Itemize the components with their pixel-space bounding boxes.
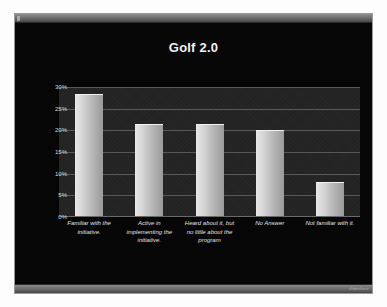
x-axis-tick-label: Not familiar with it. [303, 219, 357, 228]
chart-bar [75, 94, 103, 218]
slide-canvas: Golf 2.0 30%25%20%15%10%5%0%Familiar wit… [15, 23, 372, 284]
gridline [59, 87, 360, 88]
chart-bar [256, 130, 284, 217]
presentation-slide-frame: Golf 2.0 30%25%20%15%10%5%0%Familiar wit… [14, 13, 373, 294]
y-axis-tick-label: 10% [37, 171, 67, 177]
x-axis-tick-label: No Answer [243, 219, 297, 228]
x-axis-tick-label: Active in implementing the initiative. [122, 219, 176, 245]
chart-bar [316, 182, 344, 217]
x-axis-tick-label: Familiar with the initiative. [62, 219, 116, 236]
y-axis-tick-label: 25% [37, 106, 67, 112]
screenshot-root: Golf 2.0 30%25%20%15%10%5%0%Familiar wit… [0, 0, 387, 307]
watermark-label: slideshare [349, 286, 369, 291]
x-axis-tick-label: Heard about it, but no little about the … [182, 219, 236, 245]
chart-plot-area [59, 87, 360, 217]
chart-bar [196, 124, 224, 217]
gridline [59, 109, 360, 110]
bar-chart: 30%25%20%15%10%5%0%Familiar with the ini… [15, 23, 372, 284]
y-axis-tick-label: 30% [37, 84, 67, 90]
chart-bar [135, 124, 163, 217]
y-axis-tick-label: 20% [37, 127, 67, 133]
window-statusbar[interactable]: slideshare [15, 284, 372, 293]
x-axis-line [59, 216, 360, 217]
window-titlebar[interactable] [15, 14, 372, 23]
y-axis-tick-label: 15% [37, 149, 67, 155]
titlebar-handle-icon [17, 16, 20, 21]
y-axis-tick-label: 5% [37, 192, 67, 198]
